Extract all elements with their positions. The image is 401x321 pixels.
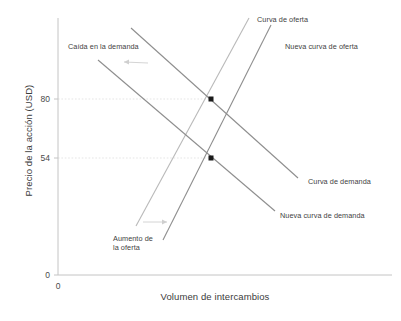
demand-shift-arrow-icon [124,60,148,65]
annotation-aumento-line1: Aumento de [113,234,153,243]
label-nueva-curva-de-oferta: Nueva curva de oferta [285,42,358,51]
equilibrium-marker-54 [209,156,214,161]
y-tick-label-54: 54 [28,153,50,163]
annotation-aumento-line2: la oferta [113,243,140,252]
label-curva-de-demanda: Curva de demanda [308,177,371,186]
curve-supply-original [136,18,249,226]
annotation-caida-en-la-demanda: Caída en la demanda [68,42,139,51]
curve-supply-new [163,25,271,240]
curve-demand-new [98,60,275,211]
chart-figure: Precio de la acción (USD) Volumen de int… [0,0,401,321]
equilibrium-marker-80 [209,97,214,102]
label-curva-de-oferta: Curva de oferta [257,15,308,24]
label-nueva-curva-de-demanda: Nueva curva de demanda [280,211,365,220]
annotation-aumento-de-la-oferta: Aumento de la oferta [113,234,153,252]
y-tick-label-80: 80 [28,94,50,104]
curve-demand-original [131,28,298,178]
supply-shift-arrow-icon [143,220,167,225]
x-tick-label-0: 0 [48,281,68,291]
x-axis-title: Volumen de intercambios [100,291,330,302]
y-tick-label-0: 0 [28,270,50,280]
y-axis-title: Precio de la acción (USD) [23,61,34,221]
